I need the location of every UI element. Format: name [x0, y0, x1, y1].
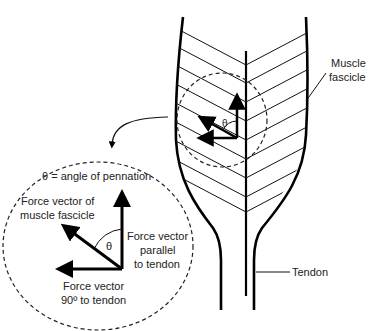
fascicle-callout-line [306, 73, 326, 101]
tendon-label: Tendon [292, 266, 328, 278]
force-parallel-label-1: Force vector [127, 230, 188, 242]
muscle-fascicle-label-2: fascicle [329, 71, 366, 83]
force-fascicle-label-2: muscle fascicle [20, 209, 95, 221]
pennation-diagram: θ θ θ = angle of pennation Force vector … [0, 0, 380, 331]
force-parallel-label-3: to tendon [134, 258, 180, 270]
force-parallel-label-2: parallel [140, 244, 175, 256]
theta-definition: θ = angle of pennation [42, 170, 151, 182]
force-90-label-2: 90º to tendon [61, 294, 126, 306]
theta-large-label: θ [106, 240, 112, 252]
pointer-arrow [112, 117, 168, 145]
theta-small-label: θ [222, 118, 228, 129]
muscle-fascicle-label-1: Muscle [331, 57, 366, 69]
force-90-label-1: Force vector [63, 280, 124, 292]
force-fascicle-label-1: Force vector of [21, 195, 95, 207]
